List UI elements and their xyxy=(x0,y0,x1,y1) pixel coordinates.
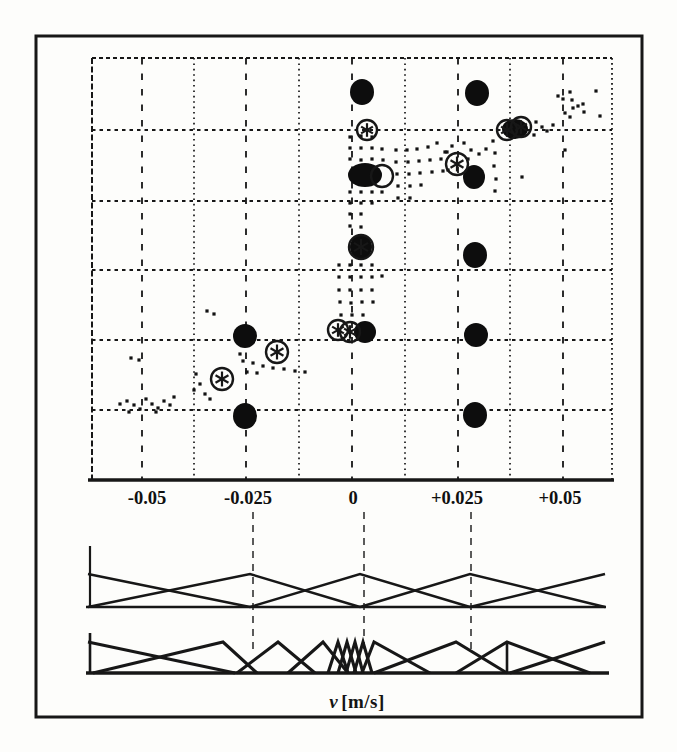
scatter-point xyxy=(407,172,410,175)
scatter-point xyxy=(370,190,373,193)
scatter-point xyxy=(303,370,306,373)
scatter-point xyxy=(360,300,363,303)
x-axis-label-variable: v xyxy=(329,691,338,712)
scatter-point xyxy=(144,397,147,400)
scatter-point xyxy=(238,352,241,355)
scatter-point xyxy=(338,300,341,303)
scatter-point xyxy=(594,89,597,92)
x-axis-label: v[m/s] xyxy=(287,691,427,713)
scatter-point xyxy=(408,184,411,187)
scatter-point xyxy=(396,196,399,199)
scatter-point xyxy=(203,392,206,395)
scatter-point xyxy=(361,313,364,316)
membership-triangle-lower xyxy=(510,642,605,673)
data-dot xyxy=(463,242,487,268)
scatter-point xyxy=(359,201,362,204)
scatter-point xyxy=(484,147,487,150)
membership-triangle-upper xyxy=(360,574,605,607)
scatter-point xyxy=(534,120,537,123)
scatter-point xyxy=(491,139,494,142)
scatter-point xyxy=(255,371,258,374)
scatter-point xyxy=(129,356,132,359)
scatter-point xyxy=(477,152,480,155)
membership-triangle-lower xyxy=(374,642,507,673)
membership-triangle-upper xyxy=(250,574,470,607)
scatter-point xyxy=(168,403,171,406)
scatter-point xyxy=(371,300,374,303)
scatter-point xyxy=(435,141,438,144)
scatter-point xyxy=(156,406,159,409)
scatter-point xyxy=(568,90,571,93)
scatter-point xyxy=(359,288,362,291)
scatter-point xyxy=(428,158,431,161)
scatter-point xyxy=(125,399,128,402)
scatter-point xyxy=(556,94,559,97)
scatter-point xyxy=(194,372,197,375)
x-tick-label: +0.05 xyxy=(539,488,582,508)
data-dot xyxy=(350,79,374,105)
scatter-point xyxy=(348,275,351,278)
scatter-point xyxy=(462,141,465,144)
scatter-point xyxy=(348,263,351,266)
scatter-point xyxy=(359,225,362,228)
data-dot xyxy=(233,403,257,429)
scatter-point xyxy=(492,164,495,167)
scatter-point xyxy=(359,158,362,161)
scatter-point xyxy=(406,160,409,163)
data-dot xyxy=(465,80,489,106)
data-dot xyxy=(464,323,488,347)
scatter-point xyxy=(339,313,342,316)
scatter-point xyxy=(348,135,351,138)
scatter-point xyxy=(417,159,420,162)
scatter-point xyxy=(370,146,373,149)
scatter-point xyxy=(348,288,351,291)
scatter-point xyxy=(261,364,264,367)
scatter-point xyxy=(348,201,351,204)
scatter-point xyxy=(520,175,523,178)
scatter-point xyxy=(395,172,398,175)
scatter-point xyxy=(348,190,351,193)
scatter-point xyxy=(370,275,373,278)
scatter-point xyxy=(241,359,244,362)
scatter-point xyxy=(205,309,208,312)
scatter-point xyxy=(208,397,211,400)
x-tick-label: +0.025 xyxy=(431,488,483,508)
figure-panel: -0.05-0.0250+0.025+0.05 v[m/s] xyxy=(0,0,677,752)
scatter-point xyxy=(337,263,340,266)
scatter-point xyxy=(439,157,442,160)
scatter-point xyxy=(430,170,433,173)
scatter-point xyxy=(582,110,585,113)
scatter-point xyxy=(396,184,399,187)
scatter-point xyxy=(172,395,175,398)
scatter-point xyxy=(349,301,352,304)
scatter-point xyxy=(348,212,351,215)
scatter-point xyxy=(359,190,362,193)
scatter-point xyxy=(127,410,130,413)
scatter-point xyxy=(408,196,411,199)
scatter-point xyxy=(132,403,135,406)
scatter-point xyxy=(370,263,373,266)
scatter-point xyxy=(545,129,548,132)
scatter-point xyxy=(348,157,351,160)
scatter-point xyxy=(348,224,351,227)
scatter-point xyxy=(198,382,201,385)
scatter-point xyxy=(271,366,274,369)
scatter-point xyxy=(154,410,157,413)
scatter-point xyxy=(551,123,554,126)
membership-triangle-lower xyxy=(93,642,257,673)
scatter-point xyxy=(370,201,373,204)
data-dot xyxy=(463,402,487,428)
scatter-point xyxy=(418,171,421,174)
scatter-point xyxy=(251,361,254,364)
scatter-point xyxy=(380,147,383,150)
scatter-point xyxy=(581,102,584,105)
scatter-point xyxy=(359,263,362,266)
scatter-point xyxy=(494,177,497,180)
scatter-point xyxy=(337,288,340,291)
scatter-point xyxy=(245,370,248,373)
scatter-point xyxy=(441,169,444,172)
scatter-point xyxy=(540,125,543,128)
figure-canvas: -0.05-0.0250+0.025+0.05 xyxy=(0,0,677,752)
scatter-point xyxy=(450,144,453,147)
scatter-point xyxy=(563,111,566,114)
